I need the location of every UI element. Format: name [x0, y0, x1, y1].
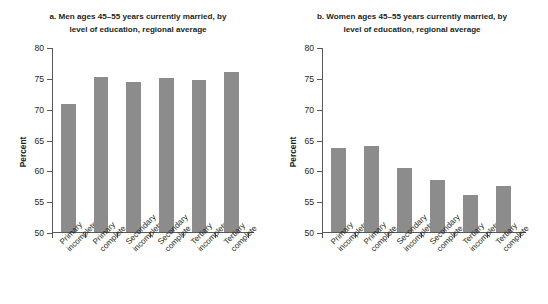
panel-a-bar	[126, 82, 140, 232]
panel-a-y-axis-title: Percent	[18, 137, 28, 168]
panel-a-y-tick-60	[47, 171, 52, 172]
panel-b-y-tick-65	[317, 141, 322, 142]
panel-a-bar	[192, 80, 206, 232]
panel-a-title-line2: level of education, regional average	[12, 24, 264, 37]
panel-b-y-tick-label-70: 70	[304, 105, 314, 115]
panel-a-y-tick-55	[47, 202, 52, 203]
panel-a-bar	[224, 72, 238, 232]
panel-b-y-tick-60	[317, 171, 322, 172]
panel-b-y-axis-line	[322, 48, 323, 233]
panel-b-x-tick-0	[322, 233, 323, 238]
panel-b-y-tick-label-50: 50	[304, 228, 314, 238]
panel-b-bar	[397, 168, 412, 232]
panel-a-y-tick-label-80: 80	[34, 43, 44, 53]
panel-a-x-tick-0	[52, 233, 53, 238]
panel-a-y-tick-70	[47, 110, 52, 111]
panel-a-plot-area: 50556065707580PrimaryincompletePrimaryco…	[52, 48, 248, 233]
panel-b-y-tick-55	[317, 202, 322, 203]
panel-b-bar	[331, 148, 346, 232]
panel-a-y-tick-label-60: 60	[34, 166, 44, 176]
panel-b-y-axis-title: Percent	[288, 137, 298, 168]
panel-a-y-tick-label-70: 70	[34, 105, 44, 115]
panel-b-title-line2: level of education, regional average	[286, 24, 538, 37]
panel-a-title-line1: a. Men ages 45–55 years currently marrie…	[12, 11, 264, 24]
panel-b-y-tick-80	[317, 48, 322, 49]
panel-a-y-tick-label-65: 65	[34, 136, 44, 146]
panel-a-bar	[159, 78, 173, 232]
panel-a-y-tick-label-50: 50	[34, 228, 44, 238]
chart-panel-a: a. Men ages 45–55 years currently marrie…	[0, 0, 274, 304]
panel-b-y-tick-label-65: 65	[304, 136, 314, 146]
chart-panel-b: b. Women ages 45–55 years currently marr…	[274, 0, 548, 304]
panel-a-y-axis-line	[52, 48, 53, 233]
panel-b-title: b. Women ages 45–55 years currently marr…	[286, 11, 538, 36]
panel-a-y-tick-80	[47, 48, 52, 49]
panel-a-title: a. Men ages 45–55 years currently marrie…	[12, 11, 264, 36]
panel-b-y-tick-75	[317, 79, 322, 80]
panel-b-plot-area: 50556065707580PrimaryincompletePrimaryco…	[322, 48, 520, 233]
panel-a-bar	[61, 104, 75, 232]
panel-b-y-tick-label-75: 75	[304, 74, 314, 84]
panel-b-y-tick-label-80: 80	[304, 43, 314, 53]
panel-a-y-tick-65	[47, 141, 52, 142]
panel-a-bar	[94, 77, 108, 232]
panel-b-y-tick-label-55: 55	[304, 197, 314, 207]
panel-a-y-tick-75	[47, 79, 52, 80]
panel-b-bar	[364, 146, 379, 232]
panel-b-y-tick-70	[317, 110, 322, 111]
panel-a-y-tick-label-55: 55	[34, 197, 44, 207]
panel-a-y-tick-label-75: 75	[34, 74, 44, 84]
panel-b-y-tick-label-60: 60	[304, 166, 314, 176]
figure-container: Latin America and the Caribbean a. Men a…	[0, 0, 548, 304]
panel-b-title-line1: b. Women ages 45–55 years currently marr…	[286, 11, 538, 24]
